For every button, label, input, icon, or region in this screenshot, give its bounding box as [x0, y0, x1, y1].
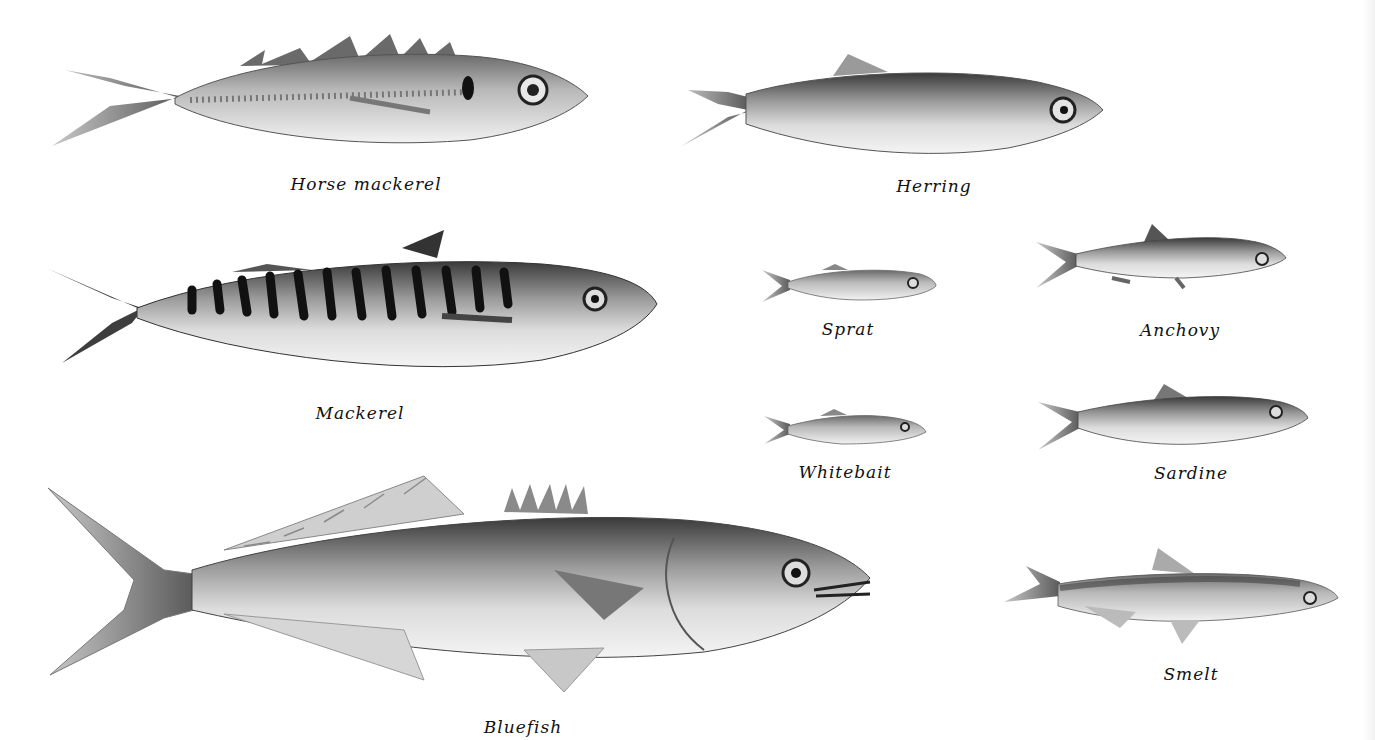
fish-label-anchovy: Anchovy: [1140, 320, 1220, 340]
fish-label-bluefish: Bluefish: [484, 717, 562, 737]
fish-label-horse-mackerel: Horse mackerel: [290, 174, 441, 194]
fish-label-sprat: Sprat: [822, 319, 875, 339]
smelt-illustration: [1000, 546, 1340, 646]
fish-label-sardine: Sardine: [1154, 463, 1228, 483]
page-edge-shadow: [1363, 0, 1375, 740]
sardine-illustration: [1036, 382, 1308, 454]
herring-illustration: [678, 52, 1103, 162]
fish-label-mackerel: Mackerel: [315, 403, 404, 423]
fish-label-smelt: Smelt: [1163, 664, 1218, 684]
anchovy-illustration: [1034, 222, 1286, 294]
bluefish-illustration: [44, 470, 874, 700]
whitebait-illustration: [762, 408, 926, 448]
mackerel-illustration: [42, 228, 660, 378]
sprat-illustration: [760, 262, 936, 304]
fish-label-herring: Herring: [896, 176, 971, 196]
horse-mackerel-illustration: [50, 28, 590, 153]
